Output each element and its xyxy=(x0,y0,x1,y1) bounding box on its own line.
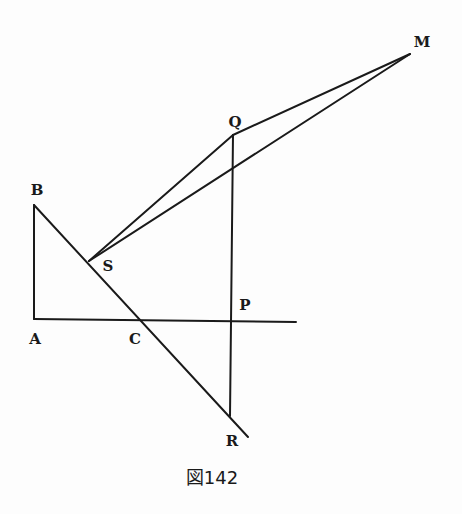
label-P: P xyxy=(239,296,250,314)
label-B: B xyxy=(31,181,44,199)
figure-caption: 図142 xyxy=(186,467,238,488)
label-M: M xyxy=(414,33,431,51)
segment-QPR xyxy=(230,135,233,416)
label-A: A xyxy=(28,330,41,348)
label-S: S xyxy=(103,257,114,275)
label-Q: Q xyxy=(228,113,241,131)
segment-horizontal-ACP xyxy=(34,319,296,322)
segment-SQ xyxy=(89,135,233,261)
segment-QM xyxy=(233,54,410,135)
diagram-svg: B A C S P Q M R 図142 xyxy=(0,0,462,514)
label-R: R xyxy=(226,432,239,450)
segment-SM xyxy=(89,54,410,261)
geometry-figure: B A C S P Q M R 図142 xyxy=(0,0,462,514)
label-C: C xyxy=(129,330,141,348)
